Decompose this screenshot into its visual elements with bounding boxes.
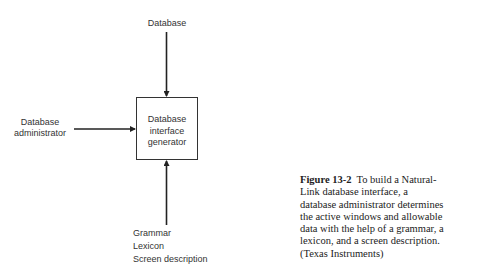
caption-text-1: To build a Natural- <box>357 174 437 185</box>
box-label-line-3: generator <box>137 137 197 149</box>
left-label-line-1: Database <box>10 117 70 128</box>
grammar-label: Grammar <box>133 227 208 240</box>
screen-description-label: Screen description <box>133 253 208 266</box>
caption-line-4: the active windows and allowable <box>300 211 480 223</box>
caption-line-1: Figure 13-2 To build a Natural- <box>300 174 480 186</box>
bottom-inputs-label: Grammar Lexicon Screen description <box>133 227 208 266</box>
caption-line-3: database administrator determines <box>300 199 480 211</box>
box-label: Database interface generator <box>137 114 197 149</box>
figure-number: Figure 13-2 <box>300 174 351 185</box>
lexicon-label: Lexicon <box>133 240 208 253</box>
box-label-line-2: interface <box>137 126 197 138</box>
left-label-line-2: administrator <box>10 128 70 139</box>
caption-line-7: (Texas Instruments) <box>300 248 480 260</box>
database-administrator-label: Database administrator <box>10 117 70 139</box>
database-label: Database <box>145 18 189 28</box>
figure-caption: Figure 13-2 To build a Natural- Link dat… <box>300 174 480 260</box>
box-label-line-1: Database <box>137 114 197 126</box>
caption-line-6: lexicon, and a screen description. <box>300 235 480 247</box>
caption-line-5: data with the help of a grammar, a <box>300 223 480 235</box>
caption-line-2: Link database interface, a <box>300 186 480 198</box>
database-interface-generator-box: Database interface generator <box>136 97 198 160</box>
